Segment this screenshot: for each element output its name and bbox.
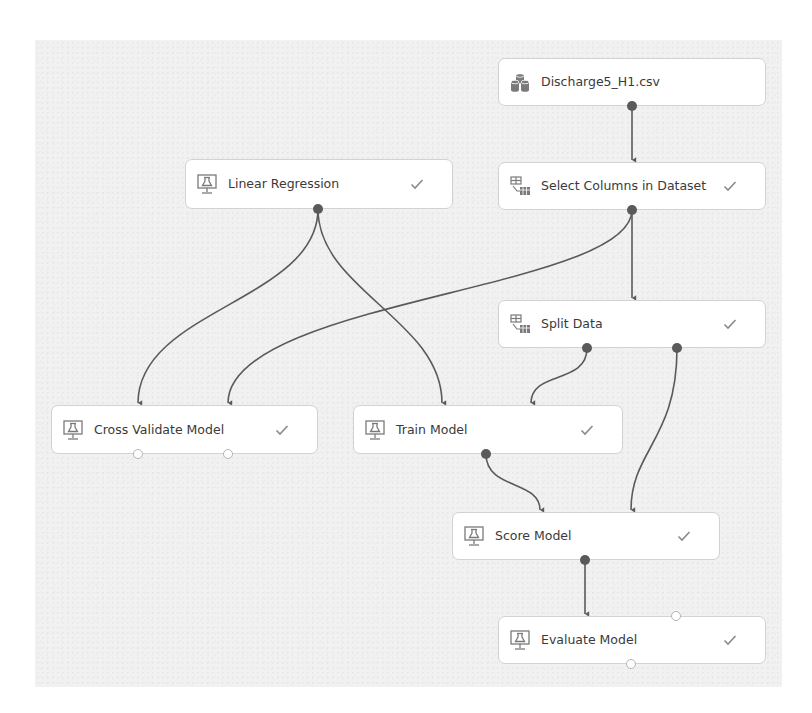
node-label: Linear Regression <box>228 176 339 191</box>
check-icon <box>723 318 737 330</box>
output-port-split-data-1[interactable] <box>582 343 592 353</box>
output-port-cross-validate-2[interactable] <box>223 449 233 459</box>
pipeline-canvas[interactable] <box>35 40 782 687</box>
check-icon <box>677 530 691 542</box>
output-port-evaluate-model[interactable] <box>626 659 636 669</box>
ml-module-icon <box>62 419 84 441</box>
ml-module-icon <box>463 525 485 547</box>
data-transform-icon <box>509 175 531 197</box>
node-train-model[interactable]: Train Model <box>353 405 623 454</box>
output-port-score-model[interactable] <box>580 555 590 565</box>
node-label: Discharge5_H1.csv <box>541 74 660 89</box>
output-port-dataset[interactable] <box>627 101 637 111</box>
dataset-icon <box>509 71 531 93</box>
node-label: Split Data <box>541 316 603 331</box>
check-icon <box>723 634 737 646</box>
data-transform-icon <box>509 313 531 335</box>
output-port-cross-validate-1[interactable] <box>133 449 143 459</box>
check-icon <box>275 424 289 436</box>
node-label: Select Columns in Dataset <box>541 178 706 193</box>
check-icon <box>723 180 737 192</box>
node-score-model[interactable]: Score Model <box>452 512 720 560</box>
output-port-train-model[interactable] <box>481 449 491 459</box>
output-port-select-columns[interactable] <box>627 205 637 215</box>
node-dataset[interactable]: Discharge5_H1.csv <box>498 58 766 106</box>
ml-module-icon <box>364 419 386 441</box>
node-label: Cross Validate Model <box>94 422 224 437</box>
node-evaluate-model[interactable]: Evaluate Model <box>498 616 766 664</box>
ml-module-icon <box>196 173 218 195</box>
node-label: Train Model <box>396 422 468 437</box>
output-port-linear-regression[interactable] <box>313 204 323 214</box>
node-cross-validate[interactable]: Cross Validate Model <box>51 405 318 454</box>
check-icon <box>580 424 594 436</box>
node-select-columns[interactable]: Select Columns in Dataset <box>498 162 766 210</box>
check-icon <box>410 178 424 190</box>
node-label: Score Model <box>495 528 572 543</box>
node-linear-regression[interactable]: Linear Regression <box>185 159 453 209</box>
node-label: Evaluate Model <box>541 632 637 647</box>
node-split-data[interactable]: Split Data <box>498 300 766 348</box>
output-port-split-data-2[interactable] <box>672 343 682 353</box>
ml-module-icon <box>509 629 531 651</box>
input-port-evaluate-model-2[interactable] <box>671 611 681 621</box>
